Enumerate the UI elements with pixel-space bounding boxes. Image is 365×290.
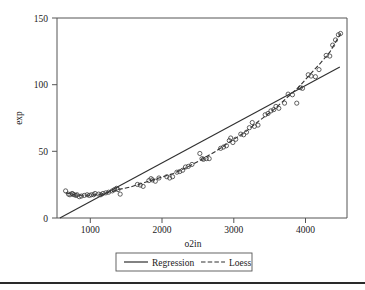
x-axis-title: o2in xyxy=(185,239,202,249)
y-tick-label-0: 0 xyxy=(43,214,48,224)
y-tick-label-50: 50 xyxy=(39,147,49,157)
y-axis-title: exp xyxy=(14,111,24,125)
scatter-point xyxy=(317,68,321,72)
legend-label-loess: Loess xyxy=(229,258,251,268)
x-axis-ticks: 1000 2000 3000 4000 xyxy=(81,218,315,235)
chart-plot: 0 50 100 150 1000 2000 3000 4000 o2in ex… xyxy=(0,0,365,290)
scatter-point xyxy=(282,101,286,105)
plot-frame xyxy=(57,18,347,218)
scatter-point xyxy=(313,75,317,79)
scatter-points-layer xyxy=(64,31,343,198)
scatter-point xyxy=(118,192,122,196)
scatter-point xyxy=(198,151,202,155)
loess-line xyxy=(66,33,341,195)
y-axis-ticks: 0 50 100 150 xyxy=(34,14,57,224)
footer-divider xyxy=(0,282,365,284)
x-tick-label-4000: 4000 xyxy=(296,225,315,235)
legend-label-regression: Regression xyxy=(152,258,194,268)
plot-border xyxy=(57,18,347,218)
y-tick-label-150: 150 xyxy=(34,14,49,24)
y-tick-label-100: 100 xyxy=(34,80,49,90)
chart-legend: Regression Loess xyxy=(116,253,252,271)
figure-container: 0 50 100 150 1000 2000 3000 4000 o2in ex… xyxy=(0,0,365,290)
x-tick-label-3000: 3000 xyxy=(224,225,243,235)
x-tick-label-1000: 1000 xyxy=(81,225,100,235)
scatter-point xyxy=(295,101,299,105)
loess-line-layer xyxy=(66,33,341,195)
scatter-point xyxy=(207,157,211,161)
x-tick-label-2000: 2000 xyxy=(153,225,172,235)
